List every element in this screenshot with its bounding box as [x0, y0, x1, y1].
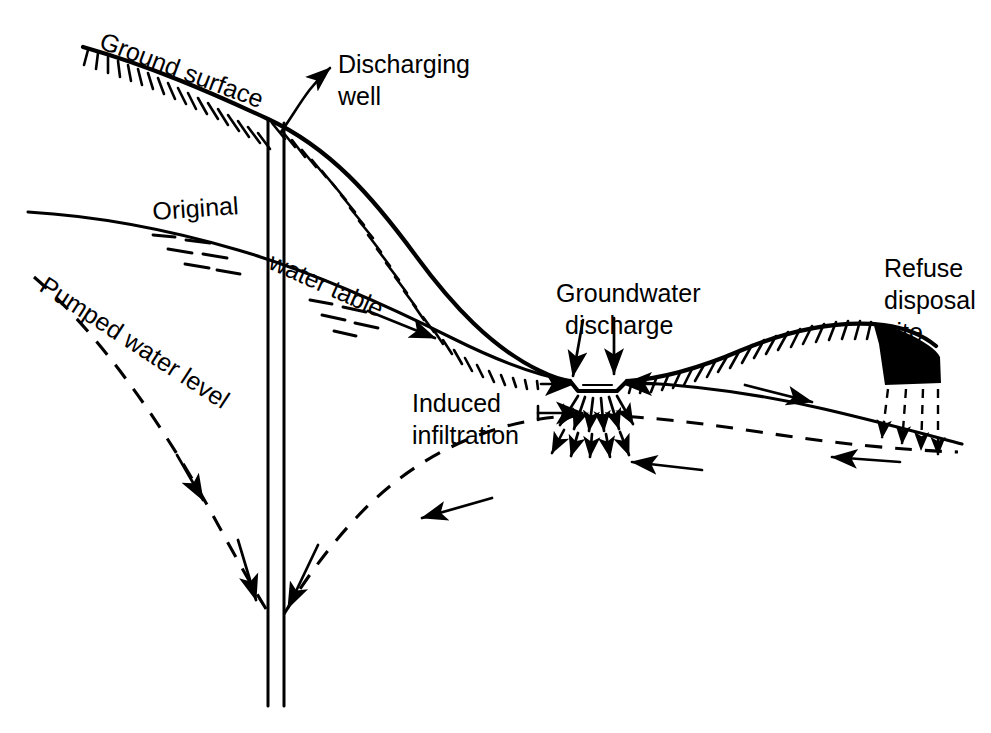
- water-table-line-right: [627, 382, 962, 444]
- label-groundwater-discharge-line1: Groundwater: [556, 279, 701, 307]
- label-refuse-site-line3: site: [884, 318, 923, 346]
- water-table-symbol-left: [153, 235, 240, 274]
- label-groundwater-discharge-line2: discharge: [565, 311, 673, 339]
- leachate-arrows: [882, 389, 938, 455]
- label-induced-infiltration-line1: Induced: [412, 389, 501, 417]
- hydrogeology-cross-section-diagram: Ground surface Discharging well Original…: [0, 0, 991, 733]
- cone-left-branch: [34, 277, 268, 612]
- stream-channel: [570, 381, 627, 391]
- discharging-well-leader: [281, 68, 330, 132]
- water-table-line-left: [28, 212, 570, 381]
- label-discharging-well-line2: well: [337, 82, 381, 110]
- label-refuse-site-line2: disposal: [884, 286, 976, 314]
- cone-right-branch: [284, 416, 958, 614]
- label-original: Original: [151, 191, 239, 225]
- label-refuse-site-line1: Refuse: [884, 254, 963, 282]
- discharging-well[interactable]: [268, 119, 284, 706]
- label-discharging-well-line1: Discharging: [338, 50, 470, 78]
- label-induced-infiltration-line2: infiltration: [412, 421, 519, 449]
- label-ground-surface: Ground surface: [96, 26, 267, 113]
- induced-infiltration-fan: [552, 396, 633, 457]
- cross-section-drawing: Ground surface Discharging well Original…: [0, 0, 991, 733]
